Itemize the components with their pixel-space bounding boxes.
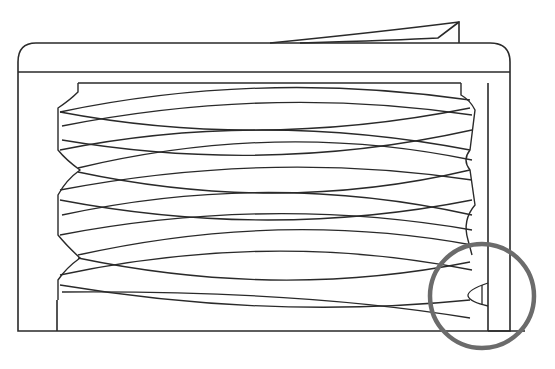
threaded-cap-drawing	[0, 0, 555, 369]
diagram	[0, 0, 555, 369]
helix-lines	[60, 88, 472, 319]
thread-end-detail	[468, 283, 525, 331]
cap-outline	[18, 22, 510, 331]
